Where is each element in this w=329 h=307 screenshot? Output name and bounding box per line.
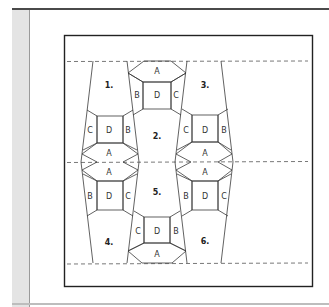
left-lower-b-label: B	[87, 192, 93, 201]
right-lower-d-label: D	[202, 192, 208, 201]
left-upper-c-label: C	[87, 126, 93, 135]
top-center-a-label: A	[154, 67, 160, 76]
top-center-c-label: C	[173, 91, 179, 100]
page-frame: 1. 2. 3. 4. 5. 6. A B D C C D B A C D B …	[0, 0, 329, 307]
piece-6-label: 6.	[201, 237, 210, 246]
piece-4-label: 4.	[105, 238, 114, 247]
right-lower-a-label: A	[202, 168, 208, 177]
dashed-line-top	[67, 61, 308, 62]
right-lower-b-label: B	[183, 192, 189, 201]
left-upper-a-label: A	[106, 149, 112, 158]
right-upper-b-label: B	[221, 126, 227, 135]
piece-3-label: 3.	[201, 81, 210, 90]
piece-2-label: 2.	[153, 132, 162, 141]
right-lower-c-label: C	[221, 192, 227, 201]
right-upper-c-label: C	[183, 126, 189, 135]
bottom-center-c-label: C	[135, 227, 141, 236]
bottom-center-a-label: A	[154, 250, 160, 259]
bottom-center-b-label: B	[173, 227, 179, 236]
left-lower-a-label: A	[106, 168, 112, 177]
left-lower-c-label: C	[125, 192, 131, 201]
piece-5-label: 5.	[153, 188, 162, 197]
left-lower-d-label: D	[106, 192, 112, 201]
pattern-diagram: 1. 2. 3. 4. 5. 6. A B D C C D B A C D B …	[0, 0, 329, 307]
right-upper-a-label: A	[202, 149, 208, 158]
bottom-center-d-label: D	[154, 227, 160, 236]
top-center-b-label: B	[134, 91, 140, 100]
piece-1-label: 1.	[105, 81, 114, 90]
left-upper-b-label: B	[125, 126, 131, 135]
top-center-d-label: D	[154, 91, 160, 100]
left-upper-d-label: D	[106, 126, 112, 135]
right-upper-d-label: D	[202, 126, 208, 135]
